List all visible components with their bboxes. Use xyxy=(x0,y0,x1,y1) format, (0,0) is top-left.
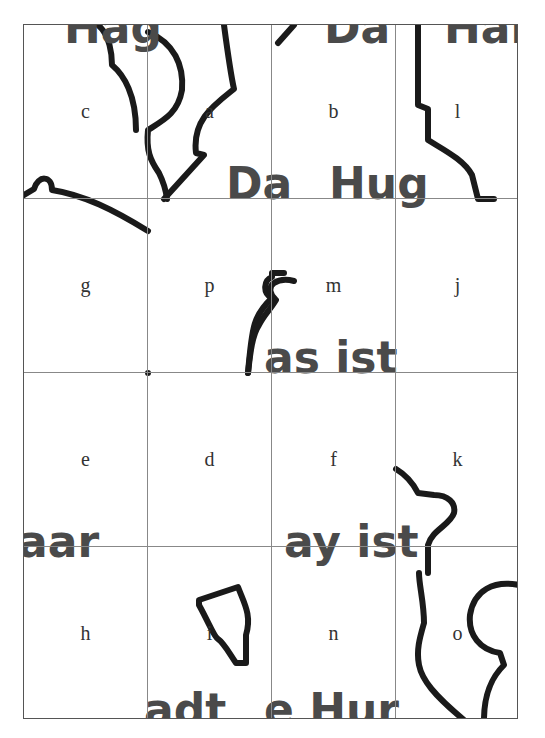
puzzle-board: Hag Da Hai Da Hug as ist aar ay ist adt … xyxy=(23,24,518,719)
puzzle-piece[interactable]: i xyxy=(148,547,272,719)
puzzle-piece[interactable]: a xyxy=(148,25,272,199)
piece-label: g xyxy=(81,274,91,297)
piece-label: i xyxy=(207,622,213,645)
puzzle-piece[interactable]: j xyxy=(396,199,518,373)
puzzle-grid: c a b l g p m j e d f k h i n o xyxy=(24,25,518,719)
piece-label: l xyxy=(455,100,461,123)
puzzle-piece[interactable]: g xyxy=(24,199,148,373)
puzzle-piece[interactable]: d xyxy=(148,373,272,547)
piece-label: n xyxy=(329,622,339,645)
piece-label: p xyxy=(205,274,215,297)
puzzle-piece[interactable]: b xyxy=(272,25,396,199)
puzzle-piece[interactable]: o xyxy=(396,547,518,719)
puzzle-piece[interactable]: k xyxy=(396,373,518,547)
piece-label: a xyxy=(205,100,214,123)
puzzle-piece[interactable]: n xyxy=(272,547,396,719)
puzzle-piece[interactable]: h xyxy=(24,547,148,719)
piece-label: m xyxy=(326,274,342,297)
puzzle-piece[interactable]: l xyxy=(396,25,518,199)
piece-label: h xyxy=(81,622,91,645)
piece-label: o xyxy=(453,622,463,645)
puzzle-piece[interactable]: p xyxy=(148,199,272,373)
piece-label: e xyxy=(81,448,90,471)
piece-label: k xyxy=(453,448,463,471)
piece-label: b xyxy=(329,100,339,123)
puzzle-piece[interactable]: c xyxy=(24,25,148,199)
puzzle-piece[interactable]: m xyxy=(272,199,396,373)
puzzle-piece[interactable]: e xyxy=(24,373,148,547)
piece-label: c xyxy=(81,100,90,123)
puzzle-piece[interactable]: f xyxy=(272,373,396,547)
piece-label: d xyxy=(205,448,215,471)
piece-label: f xyxy=(330,448,337,471)
piece-label: j xyxy=(455,274,461,297)
